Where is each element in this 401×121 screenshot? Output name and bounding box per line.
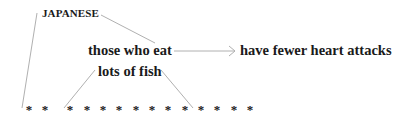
node-modifier: JAPANESE xyxy=(42,7,99,19)
node-subject: those who eat xyxy=(88,42,172,59)
star-marker-icon: * xyxy=(165,103,172,117)
star-marker-icon: * xyxy=(84,103,91,117)
line-japanese-to-left-stars xyxy=(22,13,37,108)
star-marker-icon: * xyxy=(42,103,49,117)
diagram-canvas: JAPANESE those who eat have fewer heart … xyxy=(0,0,401,121)
line-japanese-to-subject xyxy=(101,15,155,43)
star-marker-icon: * xyxy=(149,103,156,117)
star-marker-icon: * xyxy=(182,103,189,117)
star-marker-icon: * xyxy=(247,103,254,117)
star-marker-icon: * xyxy=(198,103,205,117)
node-predicate: have fewer heart attacks xyxy=(240,42,392,59)
star-marker-icon: * xyxy=(67,103,74,117)
star-marker-icon: * xyxy=(100,103,107,117)
star-marker-icon: * xyxy=(116,103,123,117)
star-marker-icon: * xyxy=(231,103,238,117)
star-marker-icon: * xyxy=(214,103,221,117)
star-marker-icon: * xyxy=(133,103,140,117)
star-row: ************** xyxy=(0,103,401,117)
star-marker-icon: * xyxy=(26,103,33,117)
node-object: lots of fish xyxy=(98,63,162,80)
